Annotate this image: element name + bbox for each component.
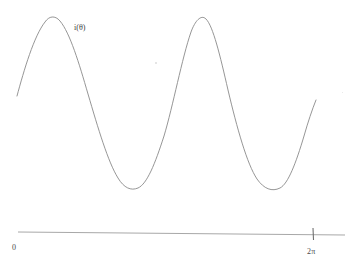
- x-axis-origin-label: 0: [12, 244, 16, 252]
- theta-axis-line: [18, 232, 345, 235]
- waveform-figure: i(θ) 0 2π: [0, 0, 361, 270]
- two-pi-tick: [313, 228, 314, 240]
- x-axis-twopi-label: 2π: [307, 248, 315, 256]
- scan-speck: [155, 62, 157, 64]
- sine-wave-plot: [0, 0, 361, 270]
- sine-curve: [17, 17, 316, 190]
- curve-label: i(θ): [74, 24, 85, 32]
- scan-speck: [342, 92, 343, 93]
